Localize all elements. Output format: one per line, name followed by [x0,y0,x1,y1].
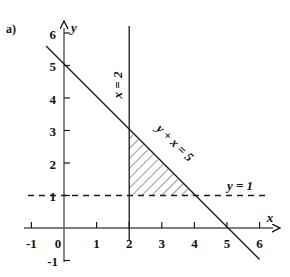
label-x-equals-2: x = 2 [110,71,125,99]
x-tick-label: 3 [159,236,166,251]
line-y-plus-x-equals-5 [46,210,64,228]
label-y-equals-1: y = 1 [225,178,253,193]
y-tick-label: 3 [50,124,57,139]
x-tick-label: 1 [93,236,100,251]
y-tick-label: 5 [50,59,57,74]
shaded-region [129,131,194,196]
y-tick-label: 4 [50,92,57,107]
x-tick-label: 4 [191,236,198,251]
x-tick-label: 5 [224,236,231,251]
coordinate-plot: -1 0 1 2 3 4 5 6 6 5 4 3 2 1 -1 x y x = … [0,0,290,277]
x-tick-label: 0 [55,236,62,251]
x-tick-label: -1 [26,236,37,251]
axes [24,28,273,262]
x-tick-label: 2 [126,236,133,251]
y-tick-label: 1 [50,189,57,204]
x-tick-labels: -1 0 1 2 3 4 5 6 [26,236,263,251]
x-axis-label: x [266,210,274,225]
y-axis-label: y [69,20,77,35]
y-tick-labels: 6 5 4 3 2 1 -1 [47,27,58,270]
y-tick-label: 2 [50,157,57,172]
x-tick-label: 6 [256,236,263,251]
y-tick-label: 6 [50,27,57,42]
y-tick-label: -1 [47,254,58,269]
figure-container: a) [0,0,290,277]
